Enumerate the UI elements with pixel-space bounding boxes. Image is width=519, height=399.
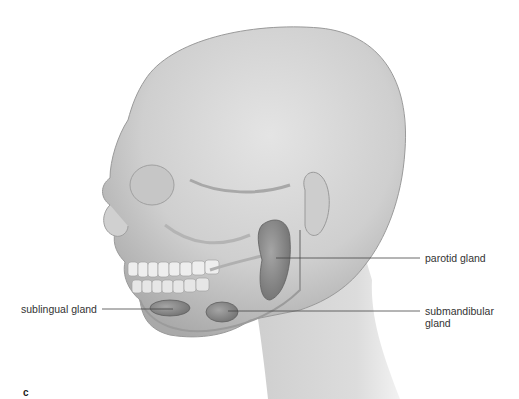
submandibular-gland-shape [206,302,238,322]
label-submandibular-gland-line1: submandibular [425,305,494,317]
orbit [130,165,174,205]
label-parotid-gland: parotid gland [425,252,486,264]
label-sublingual-gland: sublingual gland [21,303,97,315]
head-illustration [0,0,519,399]
lower-teeth [132,278,209,293]
sublingual-gland-shape [150,300,190,316]
panel-letter: c [23,387,29,398]
label-submandibular-gland-line2: gland [425,317,451,329]
